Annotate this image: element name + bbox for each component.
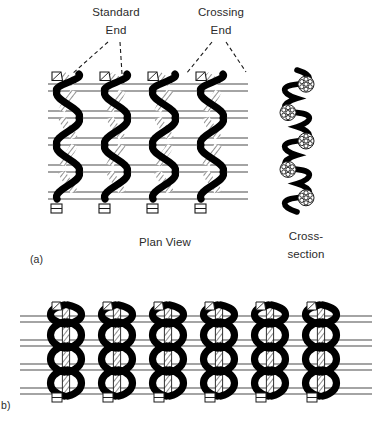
fibre-circle	[300, 85, 304, 89]
fibre-circle	[290, 165, 294, 169]
panel-a-label: (a)	[30, 253, 60, 266]
crossing-end-label-line2: End	[178, 24, 264, 37]
fibre-circle	[286, 116, 290, 120]
annotation-leaders	[72, 42, 246, 74]
fibre-circle	[304, 139, 308, 143]
yarn-bundle-cross-section	[298, 133, 314, 149]
cross-section-caption-line2: section	[268, 248, 344, 261]
fibre-circle	[286, 172, 290, 176]
plan-view-caption: Plan View	[118, 236, 212, 249]
fibre-circle	[304, 196, 308, 200]
panel-b-label: b)	[1, 399, 27, 412]
fibre-circle	[300, 193, 304, 197]
yarn-bundle-cross-section	[280, 161, 296, 177]
fibre-circle	[304, 77, 308, 81]
fibre-circle	[282, 113, 286, 117]
cross-section	[280, 70, 314, 212]
fibre-circle	[282, 170, 286, 174]
fibre-circle	[282, 165, 286, 169]
yarn-bundle-cross-section	[298, 76, 314, 92]
fibre-circle	[300, 80, 304, 84]
standard-end-label-line2: End	[73, 24, 159, 37]
fibre-circle	[308, 198, 312, 202]
fibre-circle	[300, 136, 304, 140]
fibre-circle	[304, 87, 308, 91]
leader-line	[226, 42, 246, 72]
fibre-circle	[300, 198, 304, 202]
fibre-circle	[286, 111, 290, 115]
leno-repeat-column	[255, 302, 286, 402]
fibre-circle	[308, 80, 312, 84]
yarn-bundle-cross-section	[298, 190, 314, 206]
weave-diagram-svg	[0, 0, 377, 427]
panel-b	[20, 302, 372, 402]
figure-canvas: Standard End Crossing End Plan View Cros…	[0, 0, 377, 427]
leno-repeat-column	[306, 302, 337, 402]
fibre-circle	[290, 108, 294, 112]
fibre-circle	[290, 113, 294, 117]
standard-end-label-line1: Standard	[73, 6, 159, 19]
fibre-circle	[304, 144, 308, 148]
crossing-end-label-line1: Crossing	[178, 6, 264, 19]
leader-line	[72, 42, 108, 74]
cross-section-caption-line1: Cross-	[268, 230, 344, 243]
panel-a	[48, 72, 248, 213]
fibre-circle	[290, 170, 294, 174]
fibre-circle	[304, 134, 308, 138]
leno-repeat-column	[102, 302, 133, 402]
fibre-circle	[308, 142, 312, 146]
fibre-circle	[308, 85, 312, 89]
fibre-circle	[286, 162, 290, 166]
leader-line	[120, 42, 122, 74]
fibre-circle	[282, 108, 286, 112]
fibre-circle	[300, 142, 304, 146]
leno-repeat-column	[153, 302, 184, 402]
leno-repeat-column	[51, 302, 82, 402]
fibre-circle	[304, 191, 308, 195]
leader-line	[186, 42, 212, 74]
fibre-circle	[286, 106, 290, 110]
fibre-circle	[304, 201, 308, 205]
fibre-circle	[308, 193, 312, 197]
fibre-circle	[286, 167, 290, 171]
leno-repeat-column	[204, 302, 235, 402]
fibre-circle	[308, 136, 312, 140]
fibre-circle	[304, 82, 308, 86]
yarn-bundle-cross-section	[280, 105, 296, 121]
